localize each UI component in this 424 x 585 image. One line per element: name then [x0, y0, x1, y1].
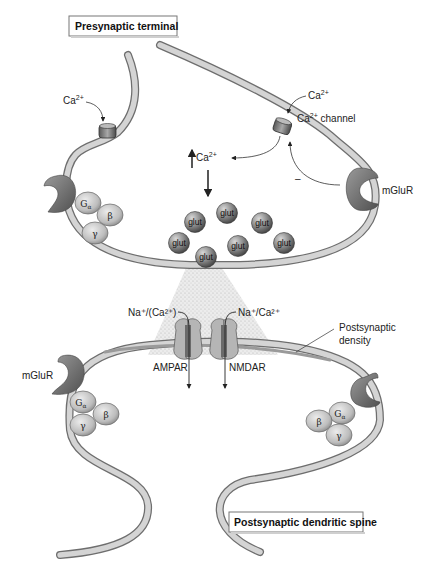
svg-text:glut: glut — [277, 238, 291, 248]
svg-text:glut: glut — [172, 238, 186, 248]
postsynaptic-title: Postsynaptic dendritic spine — [234, 516, 377, 528]
ca-channel-right — [272, 116, 292, 135]
svg-text:β: β — [316, 417, 321, 427]
psd-label-line1: Postsynaptic — [339, 322, 396, 333]
synapse-diagram: Presynaptic terminal Postsynaptic dendri… — [0, 0, 424, 585]
vesicle-docked: glut — [196, 247, 217, 268]
vesicle: glut — [228, 236, 249, 257]
svg-text:β: β — [107, 211, 112, 221]
mglur-label-pre: mGluR — [382, 185, 413, 196]
vesicle: glut — [274, 233, 295, 254]
svg-text:glut: glut — [255, 218, 269, 228]
presynaptic-title: Presynaptic terminal — [75, 20, 178, 32]
nmdar-label: NMDAR — [229, 362, 266, 373]
presynaptic-membrane — [66, 45, 376, 265]
vesicle: glut — [217, 203, 238, 224]
psd-label-line2: density — [339, 335, 371, 346]
presynaptic-title-box: Presynaptic terminal — [69, 16, 179, 38]
ca-channel-label: Ca2+ channel — [297, 112, 356, 124]
g-protein-post-right: Gα β γ — [306, 402, 355, 446]
ca-influx-arrow-left — [86, 102, 103, 121]
g-protein-pre: Gα β γ — [75, 192, 123, 244]
svg-text:γ: γ — [336, 431, 341, 441]
ca-channel-left — [99, 124, 116, 139]
ca-release-arrow — [232, 136, 280, 158]
svg-text:glut: glut — [231, 241, 245, 251]
mglur-label-post: mGluR — [22, 370, 53, 381]
svg-text:glut: glut — [188, 217, 202, 227]
ampar-label: AMPAR — [153, 362, 188, 373]
ampar-receptor — [174, 319, 203, 360]
ampar-ions-label: Na⁺/(Ca²⁺) — [128, 307, 176, 318]
vesicle: glut — [252, 213, 273, 234]
svg-text:glut: glut — [199, 252, 213, 262]
ca-rise-label: Ca2+ — [196, 151, 217, 163]
ca-label-right: Ca2+ — [308, 89, 329, 101]
svg-text:γ: γ — [92, 229, 97, 239]
g-protein-post-left: Gα β γ — [70, 391, 119, 436]
vesicle: glut — [169, 233, 190, 254]
nmdar-receptor — [210, 319, 239, 360]
svg-text:β: β — [103, 410, 108, 420]
vesicles: glut glut glut glut glut glut glut — [169, 203, 295, 268]
mglur-receptor-post-left — [52, 355, 84, 394]
ca-label-left: Ca2+ — [63, 94, 84, 106]
postsynaptic-title-box: Postsynaptic dendritic spine — [229, 512, 377, 534]
svg-text:glut: glut — [220, 208, 234, 218]
vesicle: glut — [185, 212, 206, 233]
svg-text:γ: γ — [80, 421, 85, 431]
inhibition-sign: – — [295, 173, 301, 184]
nmdar-ions-label: Na⁺/Ca²⁺ — [238, 307, 280, 318]
